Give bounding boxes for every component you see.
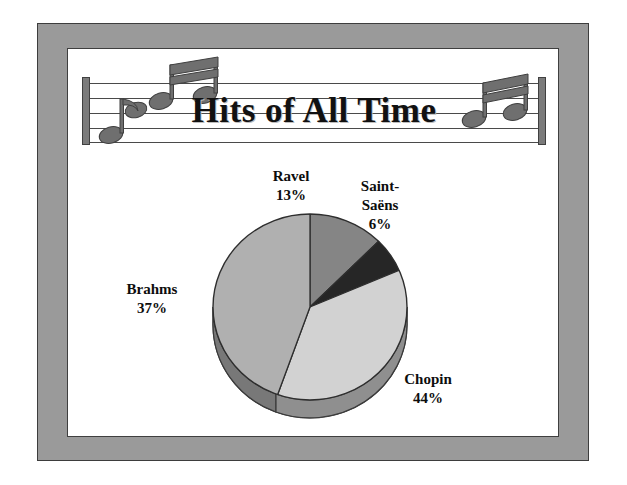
slide-canvas: Hits of All Time	[0, 0, 627, 485]
pie-label-chopin-percent: 44%	[382, 389, 474, 408]
pie-label-chopin-name: Chopin	[404, 371, 452, 387]
pie-label-brahms-percent: 37%	[104, 299, 200, 318]
pie-label-ravel-name: Ravel	[273, 168, 310, 184]
page-title: Hits of All Time	[83, 79, 545, 143]
pie-label-brahms-name: Brahms	[127, 281, 178, 297]
pie-label-chopin: Chopin 44%	[382, 370, 474, 408]
pie-label-saint-saens: Saint- Saëns 6%	[344, 177, 416, 234]
pie-label-brahms: Brahms 37%	[104, 280, 200, 318]
pie-label-saint-saens-percent: 6%	[344, 215, 416, 234]
pie-label-ravel-percent: 13%	[251, 186, 331, 205]
pie-chart: Ravel 13% Saint- Saëns 6% Brahms 37% Cho…	[66, 155, 521, 435]
pie-label-saint-saens-name2: Saëns	[344, 196, 416, 215]
title-staff-banner: Hits of All Time	[83, 79, 545, 143]
pie-label-saint-saens-name1: Saint-	[361, 178, 399, 194]
pie-label-ravel: Ravel 13%	[251, 167, 331, 205]
